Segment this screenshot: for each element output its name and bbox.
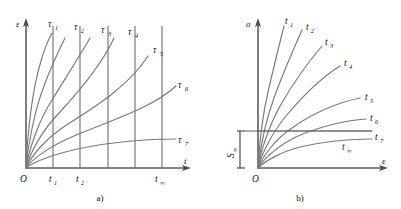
curve-label-tau-2-sub: 2 (81, 27, 85, 34)
y-axis-label-a: ε (16, 19, 20, 29)
asymptote-label-group: t ∞ (342, 142, 352, 154)
x-tick-label-t1: t (49, 174, 52, 184)
x-axis-label-a: t (184, 156, 187, 166)
curve-label-tau-6: τ (178, 80, 182, 90)
s-infinity-label-sub: ∞ (231, 147, 238, 152)
curve-label-tau-4: τ (128, 27, 132, 37)
curve-label-tau-3: τ (101, 25, 105, 35)
s-infinity-bracket (237, 131, 258, 168)
asymptote-label-tinf-sub: ∞ (347, 147, 352, 154)
chart-a-svg: τ 1 τ 2 τ 3 τ 4 τ 5 τ 6 τ 7 ε t O (0, 0, 200, 209)
x-axis-b (258, 165, 388, 171)
origin-label-b: O (252, 174, 259, 184)
origin-label-a: O (20, 174, 27, 184)
x-tick-label-t2: t (76, 174, 79, 184)
isochronous-curves-b (258, 26, 372, 168)
asymptote-label-tinf: t (342, 142, 345, 152)
curve-label-t-4: t (344, 58, 347, 68)
y-axis-label-b: σ (246, 19, 251, 29)
curve-label-t-4-sub: 4 (349, 63, 352, 70)
curve-label-t-3-sub: 3 (329, 42, 333, 49)
panel-caption-b: b) (200, 193, 400, 203)
s-infinity-label-group: S ∞ (226, 147, 238, 158)
curve-label-tau-7: τ (178, 135, 182, 145)
curve-label-t-6-sub: 6 (375, 118, 379, 125)
curve-label-tau-4-sub: 4 (135, 32, 138, 39)
curve-label-tau-7-sub: 7 (185, 140, 189, 147)
curve-label-t-2-sub: 2 (311, 27, 315, 34)
x-tick-label-t2-sub: 2 (81, 179, 85, 186)
x-axis-label-b: ε (382, 156, 386, 166)
curve-label-t-5: t (365, 92, 368, 102)
chart-b-svg: S ∞ t 1 t 2 t 3 t 4 t 5 t 6 t 7 (200, 0, 400, 209)
curve-label-tau-2: τ (74, 22, 78, 32)
curve-tau-6 (26, 86, 176, 168)
curve-label-t-1-sub: 1 (290, 21, 293, 28)
curve-label-t-1: t (285, 16, 288, 26)
panel-caption-a: a) (0, 193, 200, 203)
curve-label-tau-5-sub: 5 (160, 50, 163, 57)
curve-label-t-7: t (375, 132, 378, 142)
curve-tau-7 (26, 139, 176, 168)
curve-label-t-2: t (306, 22, 309, 32)
figure-container: τ 1 τ 2 τ 3 τ 4 τ 5 τ 6 τ 7 ε t O (0, 0, 401, 209)
curve-label-t-7-sub: 7 (380, 137, 384, 144)
x-tick-label-tinf-sub: ∞ (160, 179, 165, 186)
x-tick-labels-a: t 1 t 2 t ∞ (49, 174, 165, 186)
curve-label-tau-3-sub: 3 (107, 30, 111, 37)
y-axis-a (23, 18, 29, 168)
curve-t-2 (258, 30, 302, 168)
curve-label-tau-5: τ (153, 45, 157, 55)
chart-panel-a: τ 1 τ 2 τ 3 τ 4 τ 5 τ 6 τ 7 ε t O (0, 0, 200, 209)
curve-label-t-5-sub: 5 (370, 97, 373, 104)
curve-label-tau-1: τ (48, 19, 52, 29)
chart-panel-b: S ∞ t 1 t 2 t 3 t 4 t 5 t 6 t 7 (200, 0, 400, 209)
x-tick-label-tinf: t (155, 174, 158, 184)
curve-label-tau-6-sub: 6 (185, 85, 189, 92)
curve-labels-a: τ 1 τ 2 τ 3 τ 4 τ 5 τ 6 τ 7 (48, 19, 189, 147)
s-infinity-label: S (226, 153, 236, 158)
curve-label-t-3: t (325, 37, 328, 47)
curve-label-tau-1-sub: 1 (55, 24, 58, 31)
curve-label-t-6: t (370, 113, 373, 123)
x-tick-label-t1-sub: 1 (54, 179, 57, 186)
